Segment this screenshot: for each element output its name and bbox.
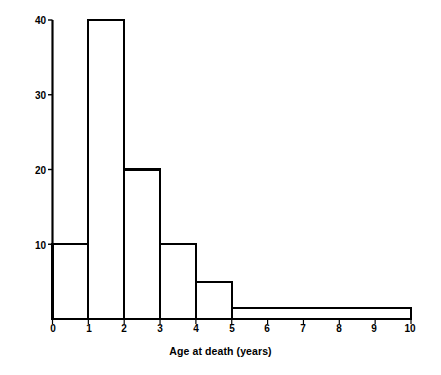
histogram-bar-1-2 xyxy=(88,20,124,319)
histogram-bar-4-5 xyxy=(196,282,232,319)
histogram-bar-3-4 xyxy=(160,244,196,319)
histogram-bar-0-1 xyxy=(53,244,89,319)
plot-area xyxy=(0,0,441,375)
histogram-figure: Frequency density (number per year of ag… xyxy=(0,0,441,375)
histogram-bar-5-10 xyxy=(232,308,411,319)
histogram-bar-2-3 xyxy=(124,170,160,320)
histogram-bars xyxy=(53,20,412,319)
